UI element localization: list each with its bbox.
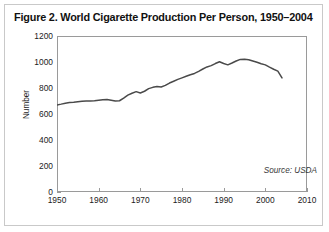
x-tick-mark bbox=[265, 188, 266, 192]
figure-title: Figure 2. World Cigarette Production Per… bbox=[14, 11, 307, 23]
x-tick-label: 2010 bbox=[287, 196, 327, 204]
y-tick-label: 1200 bbox=[13, 32, 53, 40]
x-tick-mark bbox=[57, 188, 58, 192]
y-tick-label: 200 bbox=[13, 162, 53, 170]
x-tick-label: 1960 bbox=[79, 196, 119, 204]
x-tick-label: 1950 bbox=[37, 196, 77, 204]
y-tick-mark bbox=[57, 192, 61, 193]
x-tick-label: 1980 bbox=[162, 196, 202, 204]
x-tick-mark bbox=[182, 188, 183, 192]
source-attribution: Source: USDA bbox=[264, 166, 317, 175]
x-tick-mark bbox=[140, 188, 141, 192]
x-tick-mark bbox=[224, 188, 225, 192]
y-tick-label: 400 bbox=[13, 136, 53, 144]
x-tick-label: 1990 bbox=[204, 196, 244, 204]
x-tick-mark bbox=[99, 188, 100, 192]
x-tick-label: 2000 bbox=[245, 196, 285, 204]
x-tick-label: 1970 bbox=[120, 196, 160, 204]
x-tick-mark bbox=[307, 188, 308, 192]
y-tick-label: 1000 bbox=[13, 58, 53, 66]
y-tick-label: 600 bbox=[13, 110, 53, 118]
figure-container: Figure 2. World Cigarette Production Per… bbox=[0, 0, 329, 232]
y-tick-label: 800 bbox=[13, 84, 53, 92]
